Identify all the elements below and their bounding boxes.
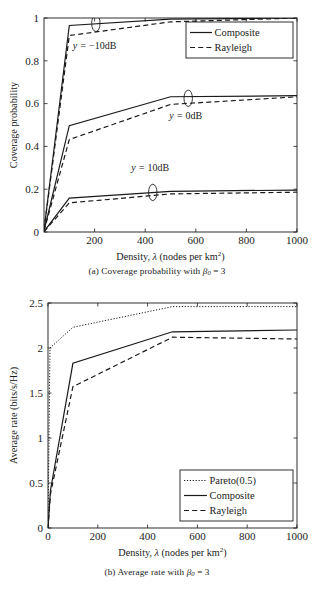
figure-page: 200400600800100000.20.40.60.81Coverage p… [0,0,314,595]
figure-a-caption: (a) Coverage probability with β0 = 3 [0,266,314,276]
series-rayleigh-y-10db [44,192,297,231]
y-tick-label: 0.5 [29,477,43,489]
y-tick-label: 2 [38,342,44,354]
y-tick-label: 0.8 [25,55,39,67]
y-tick-label: 0 [34,226,40,238]
x-axis-title-rest: (nodes per km [159,547,220,559]
y-axis-title: Average rate (bits/s/Hz) [8,367,20,464]
x-axis-title: Density, λ (nodes per km2) [118,546,226,559]
figure-average-rate: 0200400600800100000.511.522.5Average rat… [0,290,314,595]
annotation-label: y = 0dB [168,110,202,121]
x-tick-label: 800 [238,234,255,246]
figure-b-caption-subscript: 0 [191,570,194,577]
x-axis-title-rest: (nodes per km [157,251,218,263]
y-tick-label: 0 [38,522,44,534]
x-tick-label: 1000 [286,234,309,246]
y-axis-title: Coverage probability [8,81,19,168]
x-tick-label: 1000 [286,530,309,542]
legend-label-composite: Composite [215,27,260,38]
y-tick-label: 2.5 [29,297,43,309]
series-composite-y-10db [44,190,297,232]
figure-b-caption-text: Average rate with [117,567,184,577]
coverage-probability-chart: 200400600800100000.20.40.60.81Coverage p… [0,0,314,265]
annotation-label-lead: y = [130,162,147,173]
x-tick-label: 600 [188,234,205,246]
annotation-label-lead: y = [168,110,185,121]
x-tick-label: 400 [137,234,154,246]
x-axis-title: Density, λ (nodes per km2) [116,250,224,263]
annotation-label-lead: y = [72,40,89,51]
x-tick-label: 0 [45,530,51,542]
annotation-label: y = 10dB [130,162,169,173]
legend-label-rayleigh: Rayleigh [215,42,253,53]
x-tick-label: 600 [189,530,206,542]
y-tick-label: 1.5 [29,387,43,399]
x-axis-title-close: ) [221,251,224,263]
y-tick-label: 0.2 [25,183,39,195]
annotation-label-value: 10dB [148,162,170,173]
x-tick-label: 400 [139,530,156,542]
figure-a-caption-prefix: (a) [88,266,99,276]
annotation-label: y = −10dB [72,40,117,51]
figure-b-caption-equals: = 3 [197,567,209,577]
x-tick-label: 200 [86,234,103,246]
figure-a-caption-subscript: 0 [207,269,210,276]
figure-a-caption-text: Coverage probability with [101,266,200,276]
x-tick-label: 800 [239,530,256,542]
annotation-label-value: −10dB [89,40,117,51]
figure-b-caption: (b) Average rate with β0 = 3 [0,567,314,577]
y-tick-label: 1 [38,432,44,444]
legend-label-pareto-0-5-: Pareto(0.5) [210,475,256,487]
x-tick-label: 200 [90,530,107,542]
legend-label-composite: Composite [210,490,255,501]
figure-coverage-probability: 200400600800100000.20.40.60.81Coverage p… [0,0,314,290]
x-axis-title-lead: Density, [118,547,154,558]
x-axis-title-lead: Density, [116,251,152,262]
annotation-ellipse [184,90,192,106]
figure-a-caption-equals: = 3 [213,266,225,276]
x-axis-title-close: ) [223,547,226,559]
y-tick-label: 0.4 [25,140,39,152]
y-tick-label: 1 [34,12,40,24]
annotation-label-value: 0dB [185,110,202,121]
y-tick-label: 0.6 [25,97,39,109]
average-rate-chart: 0200400600800100000.511.522.5Average rat… [0,290,314,562]
legend-label-rayleigh: Rayleigh [210,505,248,516]
figure-b-caption-prefix: (b) [104,567,115,577]
